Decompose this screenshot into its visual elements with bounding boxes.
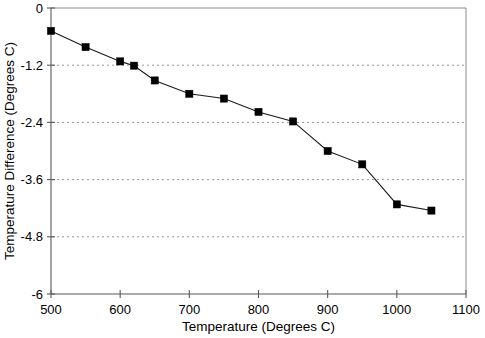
line-chart: 0-1.2-2.4-3.6-4.8-6 50060070080090010001…	[0, 0, 485, 338]
x-axis-tick-label: 500	[40, 302, 62, 317]
data-point-marker	[220, 95, 227, 102]
y-axis-tick-label: 0	[36, 1, 43, 16]
x-axis	[51, 290, 466, 298]
data-point-marker	[359, 161, 366, 168]
y-axis	[47, 8, 55, 294]
x-axis-tick-label: 600	[109, 302, 131, 317]
x-axis-tick-label: 1100	[452, 302, 480, 317]
data-point-marker	[47, 27, 54, 34]
x-axis-tick-label: 1000	[382, 302, 411, 317]
series-line-temperature-difference	[51, 31, 431, 211]
y-axis-tick-label: -6	[31, 287, 43, 302]
data-point-marker	[428, 207, 435, 214]
x-axis-tick-labels: 50060070080090010001100	[40, 302, 480, 317]
y-axis-title: Temperature Difference (Degrees C)	[2, 42, 17, 260]
data-point-marker	[289, 118, 296, 125]
chart-container: 0-1.2-2.4-3.6-4.8-6 50060070080090010001…	[0, 0, 485, 338]
data-point-marker	[186, 90, 193, 97]
gridlines	[52, 65, 466, 237]
x-axis-tick-label: 900	[317, 302, 339, 317]
y-axis-tick-labels: 0-1.2-2.4-3.6-4.8-6	[21, 1, 43, 302]
data-point-marker	[82, 43, 89, 50]
x-axis-tick-label: 800	[248, 302, 270, 317]
y-axis-tick-label: -2.4	[21, 115, 43, 130]
x-axis-tick-label: 700	[178, 302, 200, 317]
data-point-marker	[255, 108, 262, 115]
y-axis-tick-label: -4.8	[21, 229, 43, 244]
y-axis-tick-label: -3.6	[21, 172, 43, 187]
data-point-marker	[117, 58, 124, 65]
x-axis-title: Temperature (Degrees C)	[182, 319, 335, 334]
data-point-marker	[151, 77, 158, 84]
data-series	[47, 27, 435, 214]
y-axis-tick-label: -1.2	[21, 58, 43, 73]
plot-frame	[51, 8, 466, 294]
data-point-marker	[393, 201, 400, 208]
data-point-marker	[130, 62, 137, 69]
data-point-marker	[324, 147, 331, 154]
